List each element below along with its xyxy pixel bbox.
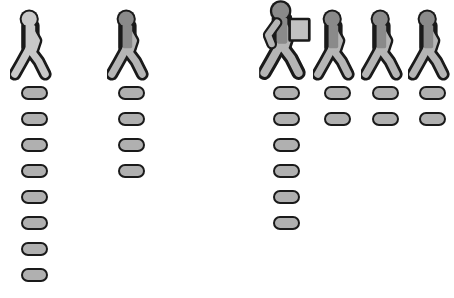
pictogram-unit-mark bbox=[273, 190, 300, 204]
pictogram-unit-mark bbox=[372, 86, 399, 100]
pictogram-unit-mark bbox=[21, 138, 48, 152]
pictogram-unit-mark bbox=[21, 164, 48, 178]
pictogram-column-3 bbox=[262, 0, 310, 242]
pictogram-unit-mark bbox=[419, 112, 446, 126]
pictogram-unit-mark bbox=[273, 164, 300, 178]
walking-person-icon bbox=[313, 0, 361, 86]
pictogram-column-5 bbox=[361, 0, 409, 138]
pictogram-unit-stack bbox=[372, 86, 399, 138]
pictogram-unit-stack bbox=[324, 86, 351, 138]
pictogram-unit-mark bbox=[273, 112, 300, 126]
pictogram-unit-mark bbox=[273, 216, 300, 230]
pictogram-column-1 bbox=[10, 0, 58, 294]
pictogram-unit-mark bbox=[372, 112, 399, 126]
pictogram-unit-mark bbox=[324, 86, 351, 100]
walking-person-icon bbox=[408, 0, 454, 86]
pictogram-unit-mark bbox=[118, 138, 145, 152]
pictogram-unit-mark bbox=[118, 86, 145, 100]
pictogram-unit-mark bbox=[118, 164, 145, 178]
pictogram-unit-stack bbox=[21, 86, 48, 294]
pictogram-column-4 bbox=[313, 0, 361, 138]
pictogram-unit-stack bbox=[118, 86, 145, 190]
walking-person-icon bbox=[10, 0, 58, 86]
pictogram-unit-mark bbox=[21, 216, 48, 230]
pictogram-unit-mark bbox=[273, 138, 300, 152]
pictogram-column-6 bbox=[408, 0, 454, 138]
pictogram-unit-mark bbox=[118, 112, 145, 126]
pictogram-unit-mark bbox=[21, 268, 48, 282]
pictogram-unit-mark bbox=[419, 86, 446, 100]
walking-person-carrying-box-icon bbox=[262, 0, 310, 86]
pictogram-unit-mark bbox=[21, 86, 48, 100]
pictogram-unit-mark bbox=[21, 242, 48, 256]
walking-person-icon bbox=[361, 0, 409, 86]
pictogram-unit-mark bbox=[324, 112, 351, 126]
pictogram-unit-mark bbox=[21, 112, 48, 126]
pictogram-unit-stack bbox=[273, 86, 300, 242]
carried-box-shape bbox=[290, 19, 310, 41]
pictogram-unit-stack bbox=[419, 86, 446, 138]
pictogram-unit-mark bbox=[273, 86, 300, 100]
walking-person-icon bbox=[107, 0, 155, 86]
pictogram-column-2 bbox=[107, 0, 155, 190]
pictogram-unit-mark bbox=[21, 190, 48, 204]
